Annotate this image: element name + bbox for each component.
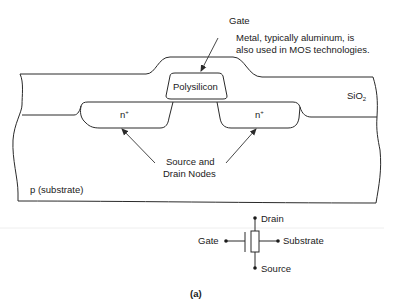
figure-caption: (a) (190, 288, 202, 299)
right-break-edge (373, 77, 381, 203)
mos-transistor-diagram: Gate Metal, typically aluminum, is also … (0, 0, 396, 308)
oxide-label: SiO2 (347, 90, 367, 102)
symbol-source-label: Source (261, 263, 291, 274)
drain-n-plus-label: n+ (255, 109, 264, 120)
gate-note-line1: Metal, typically aluminum, is (236, 32, 355, 43)
oxide-silicon-interface-right (300, 107, 377, 117)
drain-arrow (226, 129, 256, 163)
left-break-edge (13, 74, 23, 193)
polysilicon-label: Polysilicon (173, 81, 218, 92)
nodes-label-line2: Drain Nodes (163, 168, 216, 179)
gate-terminal-dot (224, 239, 228, 243)
channel-body (251, 231, 259, 252)
symbol-gate-label: Gate (198, 235, 219, 246)
symbol-drain-label: Drain (261, 213, 284, 224)
source-n-plus-region (81, 102, 173, 128)
channel-interface (81, 102, 300, 107)
nodes-label-line1: Source and (166, 156, 215, 167)
symbol-substrate-label: Substrate (283, 235, 324, 246)
drain-terminal-dot (253, 216, 257, 220)
source-n-plus-label: n+ (120, 109, 129, 120)
source-arrow (122, 129, 155, 163)
oxide-top-surface (20, 57, 373, 77)
source-terminal-dot (253, 266, 257, 270)
gate-label: Gate (229, 15, 250, 26)
oxide-silicon-interface-left (22, 106, 81, 115)
gate-arrow (201, 38, 218, 71)
mos-symbol (224, 216, 280, 270)
gate-note-line2: also used in MOS technologies. (236, 44, 370, 55)
substrate-terminal-dot (276, 239, 280, 243)
substrate-label: p (substrate) (30, 184, 83, 195)
